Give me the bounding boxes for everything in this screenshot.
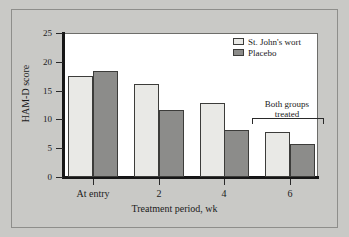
y-axis-title: HAM-D score xyxy=(20,49,31,139)
x-axis-tick-label: 4 xyxy=(222,188,227,199)
x-axis-title: Treatment period, wk xyxy=(0,203,349,214)
y-axis-tick-label: 10 xyxy=(43,115,52,124)
y-axis-line xyxy=(62,32,65,178)
y-axis-tick xyxy=(56,119,63,120)
annotation-bracket xyxy=(252,118,324,124)
bar xyxy=(134,84,159,177)
bar xyxy=(93,71,118,177)
x-axis-tick-label: 2 xyxy=(157,188,162,199)
bar xyxy=(159,110,184,177)
bar xyxy=(290,144,315,177)
y-axis-tick xyxy=(56,148,63,149)
y-axis-tick xyxy=(56,33,63,34)
annotation-both-groups-treated: Both groups treated xyxy=(246,99,328,119)
bar xyxy=(68,76,93,177)
y-axis-tick xyxy=(56,177,63,178)
chart-legend: St. John's wort Placebo xyxy=(233,36,301,58)
x-axis-tick xyxy=(159,179,160,185)
bar xyxy=(224,130,249,177)
legend-item-st-johns-wort: St. John's wort xyxy=(233,36,301,47)
y-axis-tick xyxy=(56,62,63,63)
x-axis-tick xyxy=(224,179,225,185)
legend-swatch-icon-st-johns-wort xyxy=(233,38,244,45)
y-axis-tick-label: 15 xyxy=(43,87,52,96)
y-axis-tick-label: 5 xyxy=(48,144,53,153)
y-axis-tick-label: 25 xyxy=(43,29,52,38)
x-axis-tick-label: At entry xyxy=(76,188,109,199)
y-axis-tick-label: 20 xyxy=(43,58,52,67)
legend-swatch-icon-placebo xyxy=(233,49,244,56)
annotation-line-1: Both groups xyxy=(246,99,328,109)
x-axis-tick xyxy=(93,179,94,185)
x-axis-tick-label: 6 xyxy=(288,188,293,199)
legend-item-placebo: Placebo xyxy=(233,47,301,58)
x-axis-tick xyxy=(290,179,291,185)
legend-label-st-johns-wort: St. John's wort xyxy=(248,37,301,47)
bar xyxy=(200,103,225,177)
bar xyxy=(265,132,290,177)
legend-label-placebo: Placebo xyxy=(248,48,277,58)
chart-figure: 0510152025 At entry246 HAM-D score Treat… xyxy=(0,0,349,237)
y-axis-tick-label: 0 xyxy=(48,173,53,182)
y-axis-tick xyxy=(56,91,63,92)
